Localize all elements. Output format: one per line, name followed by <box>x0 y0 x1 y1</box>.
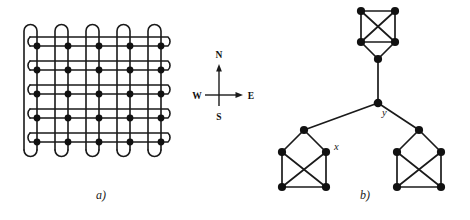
grid-node <box>127 43 134 50</box>
grid-node <box>96 115 103 122</box>
br-cluster-apex-edge-right <box>419 130 441 152</box>
tree-node <box>437 148 445 156</box>
grid-node <box>65 91 72 98</box>
bl-cluster-apex-edge-right <box>304 130 326 152</box>
grid-node <box>127 67 134 74</box>
grid-node <box>158 115 165 122</box>
vertical-loop-lines <box>24 25 161 157</box>
hline-row-2-left-cap <box>28 61 30 70</box>
compass-label-north: N <box>216 50 223 60</box>
tree-node <box>393 183 401 191</box>
tree-node <box>437 183 445 191</box>
tree-node <box>357 38 365 46</box>
grid-node <box>65 43 72 50</box>
caption-a: a) <box>96 188 106 203</box>
tree-node-br-apex <box>415 126 423 134</box>
caption-b: b) <box>360 188 370 203</box>
grid-node <box>34 91 41 98</box>
vline-col-5-bottom-cap <box>148 150 161 157</box>
node-label-x: x <box>333 141 339 152</box>
compass-label-south: S <box>216 112 221 122</box>
bl-cluster-apex-edge-left <box>282 130 304 152</box>
grid-graph-svg: N S E W <box>0 0 265 220</box>
hline-row-1-left-cap <box>28 37 30 46</box>
grid-node <box>96 91 103 98</box>
hline-row-4-left-cap <box>28 109 30 118</box>
grid-node <box>127 115 134 122</box>
grid-node <box>34 139 41 146</box>
figure-root: N S E W <box>0 0 470 220</box>
grid-node <box>158 139 165 146</box>
node-label-y: y <box>381 107 387 118</box>
grid-node <box>65 139 72 146</box>
grid-node <box>65 115 72 122</box>
grid-node <box>96 43 103 50</box>
hline-row-3-left-cap <box>28 85 30 94</box>
vline-col-2-bottom-cap <box>55 150 68 157</box>
vline-col-4-bottom-cap <box>117 150 130 157</box>
hline-row-5-left-cap <box>28 133 30 142</box>
tree-node <box>391 7 399 15</box>
vline-col-1-bottom-cap <box>24 150 37 157</box>
grid-node <box>96 139 103 146</box>
compass-label-west: W <box>192 91 202 101</box>
tree-node-x <box>322 148 330 156</box>
tree-node <box>278 148 286 156</box>
br-cluster-apex-edge-left <box>397 130 419 152</box>
tree-graph-svg: y x <box>235 0 470 220</box>
grid-node <box>34 67 41 74</box>
tree-node <box>391 38 399 46</box>
panel-a: N S E W <box>0 0 265 220</box>
vline-col-3-bottom-cap <box>86 150 99 157</box>
grid-node <box>158 43 165 50</box>
panel-b: y x <box>235 0 470 220</box>
tree-node <box>322 183 330 191</box>
tree-node <box>393 148 401 156</box>
grid-node <box>65 67 72 74</box>
compass-north-arrowhead <box>216 64 222 72</box>
grid-node <box>158 67 165 74</box>
tree-node <box>278 183 286 191</box>
tree-node <box>357 7 365 15</box>
grid-node <box>34 115 41 122</box>
grid-node <box>158 91 165 98</box>
tree-node-center-y <box>374 99 383 108</box>
grid-node <box>34 43 41 50</box>
grid-node <box>96 67 103 74</box>
tree-node-bl-apex <box>300 126 308 134</box>
tree-node-top-apex <box>374 55 382 63</box>
grid-node <box>127 139 134 146</box>
grid-node <box>127 91 134 98</box>
branch-center-to-bottom-left <box>304 103 378 130</box>
tree-edges <box>282 11 441 187</box>
